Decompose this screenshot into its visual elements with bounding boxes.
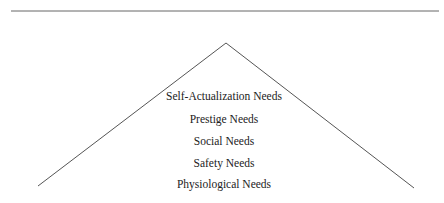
level-social: Social Needs — [2, 134, 444, 148]
level-self-actualization: Self-Actualization Needs — [2, 89, 444, 103]
level-physiological: Physiological Needs — [2, 177, 444, 191]
level-safety: Safety Needs — [2, 156, 444, 170]
level-prestige: Prestige Needs — [2, 112, 444, 126]
